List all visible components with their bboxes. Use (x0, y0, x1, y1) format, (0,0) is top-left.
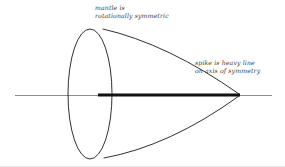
cone-mantle-diagram (0, 0, 285, 167)
mantle-lower-curve (104, 96, 239, 158)
mantle-annotation-label: mantle is rotationally symmetric (95, 4, 169, 19)
spike-label-line-1: spike is heavy line (195, 59, 260, 67)
diagram-canvas: mantle is rotationally symmetric spike i… (0, 0, 285, 167)
mantle-label-line-1: mantle is (95, 4, 169, 12)
spike-label-line-2: on axis of symmetry (195, 67, 260, 75)
mantle-label-line-2: rotationally symmetric (95, 12, 169, 20)
spike-annotation-label: spike is heavy line on axis of symmetry (195, 59, 260, 74)
